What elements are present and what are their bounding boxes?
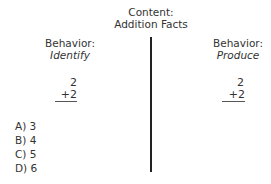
content-label: Content: (111, 6, 191, 18)
option-a: A) 3 (15, 120, 36, 132)
left-behavior-label: Behavior: (40, 37, 100, 49)
divider-line (150, 37, 152, 172)
right-behavior-value: Produce (208, 49, 268, 61)
right-behavior-label: Behavior: (208, 37, 268, 49)
option-b: B) 4 (15, 134, 36, 146)
content-topic: Addition Facts (111, 18, 191, 30)
option-c: C) 5 (15, 148, 36, 160)
left-problem-bottom: +2 (55, 88, 77, 102)
right-problem-bottom: +2 (222, 88, 245, 102)
left-behavior-value: Identify (40, 49, 100, 61)
option-d: D) 6 (15, 162, 37, 174)
